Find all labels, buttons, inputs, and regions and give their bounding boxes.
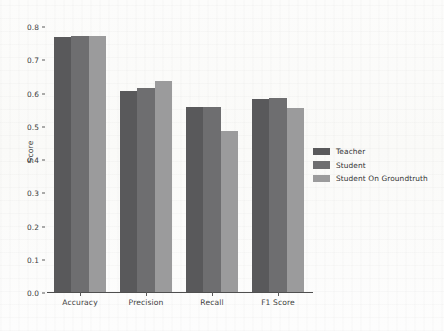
y-axis-tick-label: 0.6 bbox=[27, 89, 39, 98]
y-axis-tick: 0.7 bbox=[27, 56, 47, 65]
bar[interactable] bbox=[155, 81, 173, 293]
y-axis-tick-mark bbox=[42, 160, 45, 161]
y-axis-tick-label: 0.3 bbox=[27, 189, 39, 198]
bar[interactable] bbox=[221, 131, 239, 293]
y-axis-tick-label: 0.7 bbox=[27, 56, 39, 65]
y-axis-tick: 0.2 bbox=[27, 222, 47, 231]
bar[interactable] bbox=[269, 98, 287, 293]
y-axis-tick-label: 0.5 bbox=[27, 122, 39, 131]
y-axis-tick-mark bbox=[42, 293, 45, 294]
bar-group bbox=[54, 27, 107, 293]
bar-group bbox=[252, 27, 305, 293]
y-axis-tick-label: 0.1 bbox=[27, 255, 39, 264]
x-axis-tick-label: F1 Score bbox=[261, 298, 295, 307]
bar[interactable] bbox=[89, 36, 107, 293]
x-axis-tick-mark bbox=[146, 292, 147, 296]
bar-group bbox=[120, 27, 173, 293]
chart-screenshot: Score 0.00.10.20.30.40.50.60.70.8 Accura… bbox=[0, 0, 444, 331]
y-axis-tick: 0.5 bbox=[27, 122, 47, 131]
chart-legend: TeacherStudentStudent On Groundtruth bbox=[313, 147, 428, 183]
x-axis-tick-label: Accuracy bbox=[62, 298, 97, 307]
y-axis-tick-label: 0.0 bbox=[27, 289, 39, 298]
x-axis-tick-mark bbox=[212, 292, 213, 296]
y-axis-tick-mark bbox=[42, 27, 45, 28]
x-axis-tick-label: Precision bbox=[129, 298, 164, 307]
x-axis-baseline bbox=[47, 292, 313, 293]
plot-area: 0.00.10.20.30.40.50.60.70.8 bbox=[47, 27, 311, 293]
y-axis-tick-mark bbox=[42, 60, 45, 61]
legend-color-swatch bbox=[313, 148, 330, 156]
x-axis-tick-mark bbox=[278, 292, 279, 296]
bar[interactable] bbox=[252, 99, 270, 293]
y-axis-tick-mark bbox=[42, 193, 45, 194]
legend-item-label: Student On Groundtruth bbox=[336, 174, 428, 183]
y-axis-tick: 0.3 bbox=[27, 189, 47, 198]
bar[interactable] bbox=[54, 37, 72, 293]
bar[interactable] bbox=[203, 107, 221, 293]
legend-color-swatch bbox=[313, 175, 330, 183]
y-axis-tick: 0.4 bbox=[27, 156, 47, 165]
bar[interactable] bbox=[71, 36, 89, 293]
y-axis-tick-mark bbox=[42, 93, 45, 94]
legend-item[interactable]: Student bbox=[313, 161, 428, 170]
y-axis-tick-mark bbox=[42, 126, 45, 127]
y-axis-tick: 0.0 bbox=[27, 289, 47, 298]
legend-item-label: Student bbox=[336, 161, 366, 170]
x-axis-tick-mark bbox=[80, 292, 81, 296]
y-axis-tick: 0.1 bbox=[27, 255, 47, 264]
legend-color-swatch bbox=[313, 161, 330, 169]
legend-item[interactable]: Teacher bbox=[313, 147, 428, 156]
y-axis-tick-label: 0.2 bbox=[27, 222, 39, 231]
x-axis-tick-label: Recall bbox=[200, 298, 223, 307]
y-axis-tick: 0.6 bbox=[27, 89, 47, 98]
y-axis-tick-label: 0.4 bbox=[27, 156, 39, 165]
bar[interactable] bbox=[186, 107, 204, 293]
bar[interactable] bbox=[137, 88, 155, 293]
legend-item[interactable]: Student On Groundtruth bbox=[313, 174, 428, 183]
y-axis-tick-mark bbox=[42, 259, 45, 260]
bar[interactable] bbox=[120, 91, 138, 293]
bar[interactable] bbox=[287, 108, 305, 293]
y-axis-tick-label: 0.8 bbox=[27, 23, 39, 32]
y-axis-tick-mark bbox=[42, 226, 45, 227]
y-axis-tick: 0.8 bbox=[27, 23, 47, 32]
legend-item-label: Teacher bbox=[336, 147, 365, 156]
bar-group bbox=[186, 27, 239, 293]
